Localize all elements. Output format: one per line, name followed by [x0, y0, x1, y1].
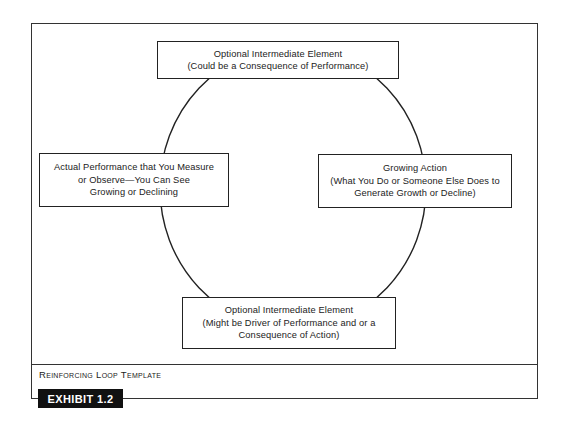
- node-left-line-1: Actual Performance that You Measure: [54, 161, 214, 174]
- exhibit-label: EXHIBIT 1.2: [38, 389, 123, 408]
- node-left-line-2: or Observe—You Can See: [78, 174, 190, 187]
- node-right-line-2: (What You Do or Someone Else Does to: [330, 175, 500, 188]
- node-bottom-line-3: Consequence of Action): [239, 329, 340, 342]
- node-left-line-3: Growing or Declining: [90, 186, 178, 199]
- node-right-line-1: Growing Action: [383, 162, 447, 175]
- node-bottom-line-2: (Might be Driver of Performance and or a: [203, 317, 376, 330]
- node-bottom-line-1: Optional Intermediate Element: [225, 304, 353, 317]
- node-right-growing-action: Growing Action (What You Do or Someone E…: [318, 154, 512, 208]
- node-bottom-intermediate-element: Optional Intermediate Element (Might be …: [182, 297, 396, 349]
- caption-divider: [31, 364, 538, 365]
- node-left-actual-performance: Actual Performance that You Measure or O…: [39, 153, 229, 207]
- node-top-line-1: Optional Intermediate Element: [214, 48, 342, 61]
- figure-caption: Reinforcing Loop Template: [39, 369, 161, 380]
- node-right-line-3: Generate Growth or Decline): [354, 187, 476, 200]
- node-top-intermediate-element: Optional Intermediate Element (Could be …: [157, 41, 399, 79]
- node-top-line-2: (Could be a Consequence of Performance): [187, 60, 368, 73]
